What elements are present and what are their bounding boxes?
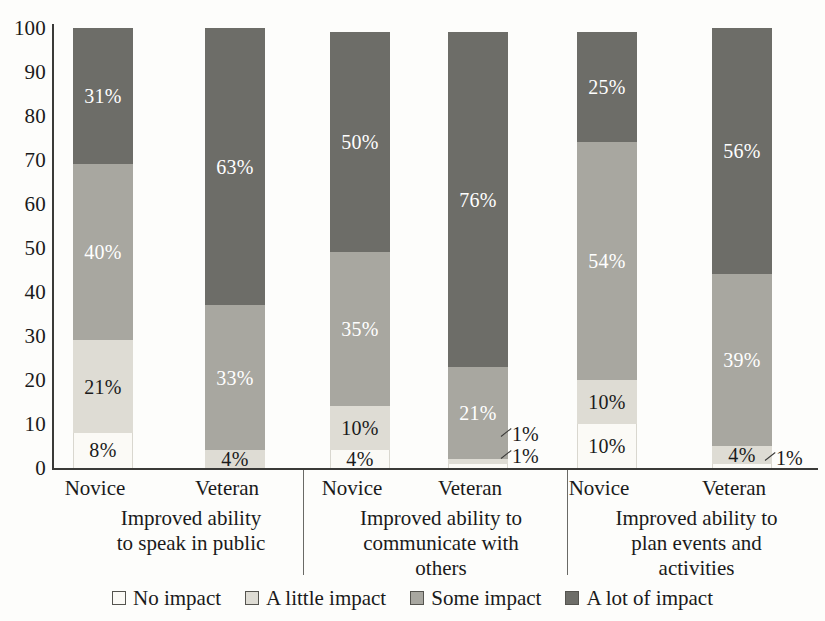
segment-some-impact[interactable]: 35% [330,252,390,406]
segment-value-label: 8% [89,440,116,460]
segment-a-little-impact[interactable]: 21% [73,340,133,432]
bar-novice-group-2[interactable]: 4%10%35%50% [330,32,390,468]
category-label-novice-group-1: Novice [35,476,155,500]
group-caption-line: activities [567,556,825,581]
bar-veteran-group-2[interactable]: 21%76% [448,32,508,468]
legend-label: No impact [133,586,221,610]
segment-some-impact[interactable]: 39% [712,274,772,446]
legend-swatch-icon [565,591,579,605]
segment-value-label: 25% [588,77,626,97]
y-axis-tick-90: 90 [0,62,46,83]
category-label-novice-group-2: Novice [292,476,412,500]
segment-a-lot-of-impact[interactable]: 76% [448,32,508,366]
group-caption-2: Improved ability tocommunicate withother… [311,506,571,581]
plot-area: 8%21%40%31%4%33%63%4%10%35%50%21%76%10%1… [52,28,818,468]
segment-some-impact[interactable]: 33% [205,305,265,450]
legend-item-no-impact[interactable]: No impact [112,586,221,610]
legend-swatch-icon [410,591,424,605]
segment-some-impact[interactable]: 21% [448,367,508,459]
segment-value-label: 33% [216,368,254,388]
stacked-bar-chart: 0102030405060708090100 8%21%40%31%4%33%6… [0,0,825,621]
y-axis-tick-80: 80 [0,106,46,127]
segment-value-label: 10% [588,392,626,412]
segment-a-lot-of-impact[interactable]: 31% [73,28,133,164]
segment-value-label: 31% [84,86,122,106]
legend-label: Some impact [431,586,541,610]
group-caption-1: Improved abilityto speak in public [61,506,321,556]
legend-item-a-lot-of-impact[interactable]: A lot of impact [565,586,713,610]
segment-a-lot-of-impact[interactable]: 25% [577,32,637,142]
segment-value-label: 56% [723,141,761,161]
bar-novice-group-3[interactable]: 10%10%54%25% [577,32,637,468]
group-caption-line: others [311,556,571,581]
segment-no-impact[interactable]: 10% [577,424,637,468]
segment-value-label: 63% [216,157,254,177]
segment-a-little-impact[interactable]: 4% [712,446,772,464]
chart-legend: No impactA little impactSome impactA lot… [0,586,825,610]
group-caption-line: plan events and [567,531,825,556]
group-caption-3: Improved ability toplan events andactivi… [567,506,825,581]
y-axis-tick-10: 10 [0,414,46,435]
y-axis-tick-100: 100 [0,18,46,39]
legend-label: A lot of impact [586,586,713,610]
y-axis-tick-60: 60 [0,194,46,215]
bar-novice-group-1[interactable]: 8%21%40%31% [73,28,133,468]
category-label-veteran-group-3: Veteran [674,476,794,500]
x-axis-line [52,468,818,470]
legend-item-some-impact[interactable]: Some impact [410,586,541,610]
legend-label: A little impact [266,586,386,610]
segment-value-label: 50% [341,132,379,152]
segment-value-label: 54% [588,251,626,271]
group-caption-line: Improved ability to [311,506,571,531]
y-axis-tick-40: 40 [0,282,46,303]
segment-value-label: 4% [221,449,248,469]
segment-value-label: 4% [728,445,755,465]
segment-value-label: 76% [459,190,497,210]
segment-a-little-impact[interactable]: 4% [205,450,265,468]
bar-veteran-group-1[interactable]: 4%33%63% [205,28,265,468]
segment-some-impact[interactable]: 54% [577,142,637,380]
segment-value-label: 35% [341,319,379,339]
group-caption-line: Improved ability to [567,506,825,531]
category-label-novice-group-3: Novice [539,476,659,500]
segment-value-label: 10% [341,418,379,438]
segment-value-label: 4% [346,449,373,469]
segment-value-label: 21% [459,403,497,423]
group-caption-line: communicate with [311,531,571,556]
y-axis-tick-30: 30 [0,326,46,347]
category-label-veteran-group-1: Veteran [167,476,287,500]
legend-item-a-little-impact[interactable]: A little impact [245,586,386,610]
segment-value-label: 40% [84,242,122,262]
legend-swatch-icon [245,591,259,605]
segment-a-lot-of-impact[interactable]: 50% [330,32,390,252]
category-label-veteran-group-2: Veteran [410,476,530,500]
segment-a-lot-of-impact[interactable]: 63% [205,28,265,305]
segment-callout-label: 1% [512,446,539,466]
group-caption-line: Improved ability [61,506,321,531]
segment-value-label: 21% [84,377,122,397]
segment-callout-label: 1% [512,424,539,444]
y-axis-tick-20: 20 [0,370,46,391]
y-axis-tick-70: 70 [0,150,46,171]
y-axis-tick-50: 50 [0,238,46,259]
group-caption-line: to speak in public [61,531,321,556]
legend-swatch-icon [112,591,126,605]
segment-no-impact[interactable] [448,464,508,468]
segment-value-label: 10% [588,436,626,456]
segment-no-impact[interactable]: 8% [73,433,133,468]
segment-no-impact[interactable] [712,464,772,468]
segment-a-little-impact[interactable]: 10% [577,380,637,424]
segment-a-little-impact[interactable]: 10% [330,406,390,450]
segment-a-lot-of-impact[interactable]: 56% [712,28,772,274]
segment-callout-label: 1% [776,448,803,468]
segment-some-impact[interactable]: 40% [73,164,133,340]
segment-a-little-impact[interactable] [448,459,508,463]
segment-value-label: 39% [723,350,761,370]
bar-veteran-group-3[interactable]: 4%39%56% [712,28,772,468]
segment-no-impact[interactable]: 4% [330,450,390,468]
